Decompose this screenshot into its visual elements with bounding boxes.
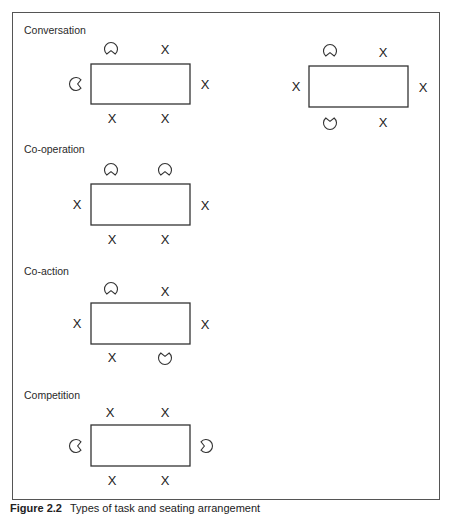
person-icon: [105, 43, 118, 54]
caption-text: Types of task and seating arrangement: [70, 502, 260, 514]
empty-seat-x-icon: X: [419, 80, 428, 95]
empty-seat-x-icon: X: [73, 197, 82, 212]
section-title: Co-action: [24, 265, 69, 277]
section-competition: CompetitionXXXX: [24, 389, 212, 488]
empty-seat-x-icon: X: [108, 473, 117, 488]
seating-arrangement: XXXX: [73, 283, 210, 365]
empty-seat-x-icon: X: [108, 232, 117, 247]
figure-caption: Figure 2.2Types of task and seating arra…: [10, 502, 260, 514]
empty-seat-x-icon: X: [161, 111, 170, 126]
table-rect: [91, 184, 190, 225]
empty-seat-x-icon: X: [201, 77, 210, 92]
table-rect: [91, 425, 190, 466]
person-icon: [201, 440, 212, 453]
section-title: Competition: [24, 389, 80, 401]
person-icon: [70, 78, 81, 91]
section-co-action: Co-actionXXXX: [24, 265, 210, 365]
person-icon: [159, 353, 172, 364]
empty-seat-x-icon: X: [108, 350, 117, 365]
seating-arrangement: XXXX: [70, 42, 210, 126]
empty-seat-x-icon: X: [161, 405, 170, 420]
table-rect: [91, 64, 190, 104]
empty-seat-x-icon: X: [106, 405, 115, 420]
person-icon: [159, 164, 172, 175]
empty-seat-x-icon: X: [73, 316, 82, 331]
empty-seat-x-icon: X: [379, 45, 388, 60]
empty-seat-x-icon: X: [201, 317, 210, 332]
person-icon: [70, 440, 81, 453]
person-icon: [324, 45, 337, 56]
empty-seat-x-icon: X: [161, 232, 170, 247]
seating-arrangement: XXXX: [292, 45, 428, 130]
section-title: Co-operation: [24, 143, 85, 155]
empty-seat-x-icon: X: [108, 111, 117, 126]
section-title: Conversation: [24, 24, 86, 36]
person-icon: [105, 164, 118, 175]
empty-seat-x-icon: X: [201, 198, 210, 213]
empty-seat-x-icon: X: [161, 284, 170, 299]
empty-seat-x-icon: X: [379, 115, 388, 130]
person-icon: [324, 118, 337, 129]
empty-seat-x-icon: X: [161, 42, 170, 57]
table-rect: [91, 303, 190, 344]
seating-arrangement: XXXX: [70, 405, 213, 488]
empty-seat-x-icon: X: [292, 79, 301, 94]
table-rect: [309, 66, 408, 107]
section-conversation: ConversationXXXXXXXX: [24, 24, 428, 130]
seating-arrangement: XXXX: [73, 164, 210, 247]
empty-seat-x-icon: X: [161, 473, 170, 488]
section-co-operation: Co-operationXXXX: [24, 143, 210, 247]
person-icon: [105, 283, 118, 294]
caption-label: Figure 2.2: [10, 502, 62, 514]
